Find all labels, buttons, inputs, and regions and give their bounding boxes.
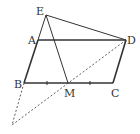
label-A: A <box>27 34 37 47</box>
segment-EA <box>38 15 46 40</box>
label-D: D <box>127 34 136 47</box>
segment-EM <box>46 15 68 83</box>
segment-ED <box>46 15 126 40</box>
label-E: E <box>36 5 44 18</box>
label-M: M <box>64 87 75 100</box>
geometry-diagram: E A D B M C <box>0 0 140 134</box>
segment-DC <box>113 40 126 83</box>
label-B: B <box>14 78 22 91</box>
label-C: C <box>111 87 119 100</box>
